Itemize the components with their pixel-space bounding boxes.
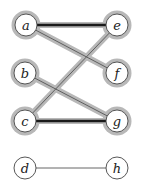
node-a: a (15, 14, 37, 36)
node-label: h (113, 161, 121, 176)
node-label: e (113, 18, 121, 33)
node-d: d (14, 157, 36, 179)
node-b: b (14, 62, 36, 84)
node-h: h (106, 157, 128, 179)
node-label: g (113, 114, 121, 129)
edge-a-f (26, 25, 117, 73)
node-label: c (21, 114, 29, 129)
node-f: f (106, 62, 128, 84)
node-e: e (106, 14, 128, 36)
node-label: b (21, 66, 29, 81)
node-g: g (106, 110, 128, 132)
node-label: d (21, 161, 29, 176)
node-label: a (22, 18, 30, 33)
bipartite-graph: abcdefgh (0, 0, 142, 191)
node-c: c (14, 110, 36, 132)
edge-b-g (25, 73, 117, 121)
